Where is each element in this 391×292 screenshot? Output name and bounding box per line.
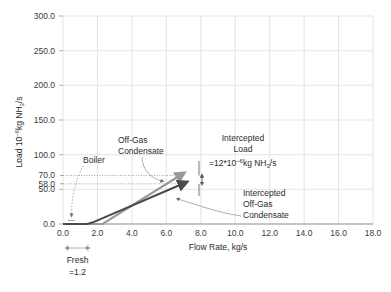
x-axis-title: Flow Rate, kg/s (189, 242, 248, 252)
annotation-boiler-label: Boiler (83, 155, 105, 165)
x-tick-label: 4.0 (126, 228, 138, 238)
x-tick-label: 10.0 (227, 228, 244, 238)
annotation-off-gas-condensate-line2: Condensate (118, 146, 164, 156)
annotation-intercepted-load-pre: =12*10 (209, 158, 236, 168)
annotation-intercepted-off-gas-line3: Condensate (243, 210, 289, 220)
annotation-off-gas-condensate-line1: Off-Gas (118, 135, 148, 145)
x-tick-label: 14.0 (296, 228, 313, 238)
y-tick-label: 250.0 (34, 46, 56, 56)
y-axis-title: Load 10–6kg NH3/s (14, 96, 25, 167)
y-tick-label: 0.0 (43, 219, 55, 229)
svg-text:Load 10–6kg NH3/s: Load 10–6kg NH3/s (14, 96, 25, 167)
annotation-intercepted-load-tail: /s (270, 158, 277, 168)
x-tick-label: 6.0 (160, 228, 172, 238)
annotation-intercepted-off-gas-line1: Intercepted (243, 188, 286, 198)
x-tick-label: 8.0 (195, 228, 207, 238)
chart-svg: 300.0 250.0 200.0 150.0 100.0 70.0 58.0 … (0, 0, 391, 292)
x-tick-label: 2.0 (91, 228, 103, 238)
annotation-fresh: Fresh =1.2 (67, 244, 89, 277)
y-axis-title-pre: Load 10 (14, 137, 24, 168)
annotation-intercepted-load-post: kg NH (243, 158, 267, 168)
x-tick-labels: 0.0 2.0 4.0 6.0 8.0 10.0 12.0 14.0 16.0 … (57, 228, 381, 238)
x-tick-label: 16.0 (330, 228, 347, 238)
annotation-fresh-line2: =1.2 (69, 267, 86, 277)
extra-ytick-marks (60, 176, 63, 184)
y-tick-label: 150.0 (34, 115, 56, 125)
annotation-intercepted-off-gas-line2: Off-Gas (243, 199, 273, 209)
annotation-intercepted-load-line2: Load (234, 144, 253, 154)
x-tick-label: 0.0 (57, 228, 69, 238)
y-axis-ticks (59, 16, 63, 224)
y-tick-label: 50.0 (38, 184, 55, 194)
y-tick-labels: 300.0 250.0 200.0 150.0 100.0 70.0 58.0 … (34, 11, 56, 229)
y-tick-label: 200.0 (34, 80, 56, 90)
y-tick-label: 300.0 (34, 11, 56, 21)
x-tick-label: 18.0 (365, 228, 382, 238)
annotation-intercepted-load-line3: =12*10–6kg NH3/s (209, 158, 276, 169)
y-tick-label: 100.0 (34, 150, 56, 160)
y-axis-title-tail: /s (14, 96, 24, 103)
y-axis-title-post: kg NH (14, 106, 24, 130)
ammonia-load-vs-flow-chart: 300.0 250.0 200.0 150.0 100.0 70.0 58.0 … (0, 0, 391, 292)
annotation-fresh-line1: Fresh (67, 255, 89, 265)
annotation-intercepted-load-line1: Intercepted (222, 133, 265, 143)
x-tick-label: 12.0 (261, 228, 278, 238)
